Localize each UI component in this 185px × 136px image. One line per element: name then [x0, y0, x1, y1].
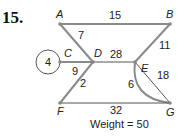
node-d [91, 60, 95, 64]
weight-e-g-curved: 6 [128, 78, 134, 90]
weight-c-d: 9 [72, 65, 78, 77]
node-g [168, 101, 172, 105]
node-e [133, 60, 137, 64]
node-a [58, 22, 62, 26]
node-c [58, 60, 62, 64]
node-label-e: E [141, 62, 149, 74]
node-label-c: C [64, 47, 72, 59]
node-label-f: F [57, 105, 65, 117]
node-b [168, 22, 172, 26]
weight-a-d: 7 [78, 29, 84, 41]
weight-d-f: 2 [80, 77, 86, 89]
weight-f-g: 32 [110, 104, 122, 116]
weight-a-b: 15 [109, 9, 121, 21]
weighted-graph: 15. A B C D E F G 15 7 4 9 28 11 2 6 18 … [0, 0, 185, 136]
total-weight: Weight = 50 [90, 118, 149, 130]
node-label-a: A [55, 8, 63, 20]
node-label-b: B [166, 8, 173, 20]
weight-b-e: 11 [159, 39, 170, 51]
node-label-g: G [166, 106, 175, 118]
weight-e-g-straight: 18 [157, 69, 169, 81]
problem-number: 15. [2, 8, 23, 27]
weight-loop-c: 4 [45, 56, 51, 68]
node-label-d: D [94, 47, 102, 59]
weight-d-e: 28 [110, 48, 122, 60]
